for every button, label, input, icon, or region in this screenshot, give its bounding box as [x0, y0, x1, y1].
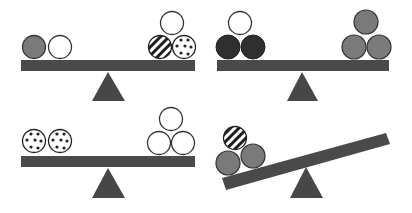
fulcrum-triangle: [290, 167, 323, 198]
striped-ball: [149, 36, 172, 59]
scale-panel-2: [216, 10, 391, 101]
white-ball: [161, 12, 184, 35]
scale-panel-3: [21, 108, 195, 199]
gray-ball: [354, 10, 378, 34]
balance-scale-puzzle: [0, 0, 412, 213]
white-ball: [49, 36, 72, 59]
gray-ball: [342, 35, 366, 59]
dark-ball: [216, 35, 240, 59]
beam: [21, 60, 195, 71]
dark-ball: [241, 35, 265, 59]
white-ball: [172, 132, 195, 155]
white-ball: [148, 132, 171, 155]
dotted-ball: [173, 36, 196, 59]
right-pan-balls: [342, 10, 391, 59]
scale-panel-1: [21, 12, 196, 102]
white-ball: [229, 12, 252, 35]
left-pan-balls: [216, 127, 265, 176]
scale-panel-4: [216, 127, 390, 199]
left-pan-balls: [23, 130, 72, 153]
dotted-ball: [23, 130, 46, 153]
left-pan-balls: [23, 36, 72, 59]
beam: [217, 60, 389, 71]
fulcrum-triangle: [287, 72, 318, 101]
gray-ball: [367, 35, 391, 59]
gray-ball: [241, 144, 265, 168]
striped-ball: [224, 127, 247, 150]
beam: [21, 156, 195, 167]
fulcrum-triangle: [92, 168, 125, 198]
right-pan-balls: [148, 108, 195, 155]
left-pan-balls: [216, 12, 265, 60]
gray-ball: [23, 36, 46, 59]
gray-ball: [216, 151, 240, 175]
white-ball: [160, 108, 183, 131]
right-pan-balls: [149, 12, 196, 59]
fulcrum-triangle: [92, 72, 125, 101]
dotted-ball: [49, 130, 72, 153]
